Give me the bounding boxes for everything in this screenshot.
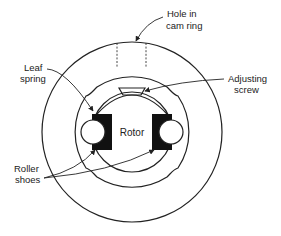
hole-label-2: cam ring: [166, 20, 202, 31]
adjusting-screw-leader-arrow: [145, 79, 224, 91]
hole-leader-arrow: [136, 17, 163, 41]
rotor-label: Rotor: [120, 127, 145, 138]
roller-shoe-right: [152, 114, 183, 150]
cam-ring-diagram: Rotor Hole in cam ring Leaf spring Adjus…: [0, 0, 281, 236]
leaf-spring-leader-arrow: [47, 69, 93, 111]
leaf-spring-label: Leaf: [24, 62, 43, 73]
roller-shoes-label: Roller: [14, 163, 39, 174]
cam-ring-hole: [117, 43, 146, 67]
adjusting-screw-label-2: screw: [234, 84, 259, 95]
adjusting-screw-label: Adjusting: [228, 73, 267, 84]
leaf-spring: [97, 95, 167, 114]
leaf-spring-label-2: spring: [20, 73, 46, 84]
roller-shoe-left: [81, 114, 112, 150]
roller-shoes-label-2: shoes: [15, 174, 41, 185]
hole-label: Hole in: [167, 8, 197, 19]
